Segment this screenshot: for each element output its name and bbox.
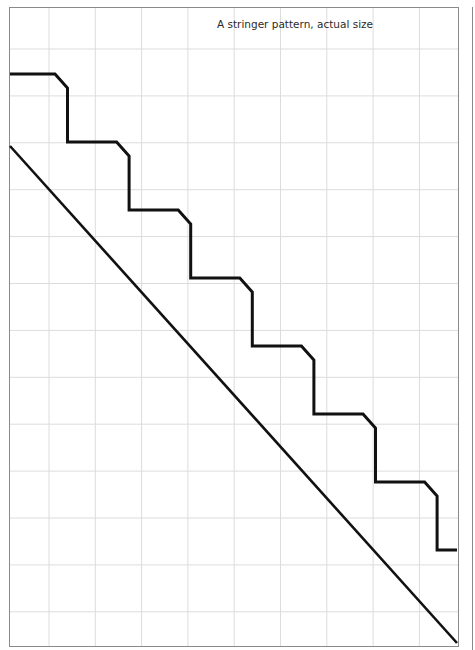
stringer-stair-profile — [10, 74, 457, 550]
stringer-diagram: A stringer pattern, actual size — [0, 0, 475, 650]
stringer-bottom-edge — [10, 146, 457, 643]
diagram-title: A stringer pattern, actual size — [217, 18, 373, 30]
grid-lines — [10, 8, 459, 647]
